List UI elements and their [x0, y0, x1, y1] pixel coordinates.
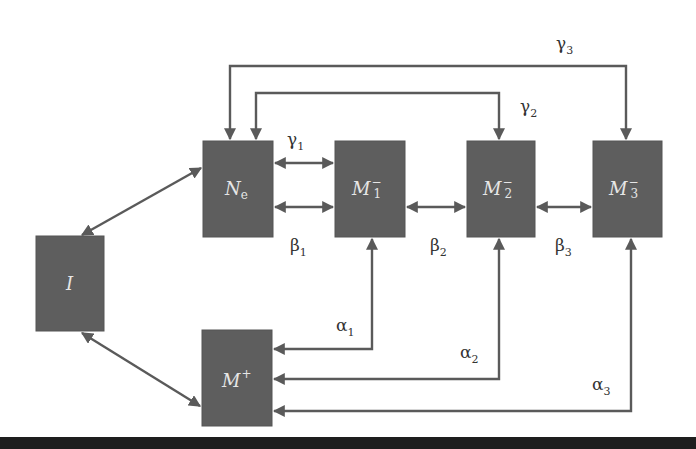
edge-gamma1: γ1: [275, 129, 333, 163]
svg-text:I: I: [65, 273, 74, 294]
node-M3: M−3: [593, 141, 662, 237]
edge-gamma3: γ3: [230, 33, 626, 139]
edge-beta3: β3: [537, 207, 591, 259]
edge-gamma2: γ2: [256, 93, 537, 139]
edge-I-Mplus: [82, 333, 200, 406]
svg-text:M−1: M−1: [351, 175, 382, 201]
edge-beta1: β1: [275, 207, 333, 259]
edge-beta2: β2: [407, 207, 465, 259]
svg-text:β3: β3: [555, 235, 572, 259]
svg-text:γ3: γ3: [556, 33, 573, 57]
svg-text:M−2: M−2: [482, 175, 513, 201]
edge-alpha1: α1: [274, 239, 372, 349]
edge-alpha2: α2: [274, 239, 499, 379]
edge-alpha3: α3: [274, 239, 631, 411]
node-M1: M−1: [335, 141, 405, 237]
svg-text:γ2: γ2: [520, 96, 537, 120]
svg-text:γ1: γ1: [287, 129, 304, 153]
node-Ne: Ne: [203, 141, 273, 237]
svg-text:α3: α3: [592, 374, 610, 398]
footer-bar: [0, 437, 696, 449]
svg-text:α1: α1: [336, 315, 354, 339]
node-M2: M−2: [467, 141, 535, 237]
svg-text:α2: α2: [460, 342, 478, 366]
node-Mplus: M+: [202, 330, 272, 426]
edge-I-Ne: [82, 168, 201, 235]
svg-text:β2: β2: [430, 235, 447, 259]
node-I: I: [36, 236, 104, 331]
compartment-diagram: γ3 γ2 γ1 β1 β2 β3 α1 α2: [0, 0, 696, 449]
svg-text:M−3: M−3: [608, 175, 639, 201]
svg-text:β1: β1: [290, 235, 307, 259]
